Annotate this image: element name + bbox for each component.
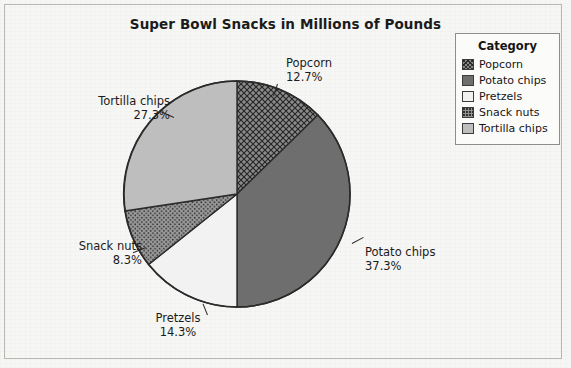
pie-label-snack-nuts-name: Snack nuts: [79, 239, 142, 253]
legend-item-snack-nuts[interactable]: Snack nuts: [462, 105, 553, 120]
pie-label-pretzels: Pretzels 14.3%: [133, 311, 223, 339]
pie-label-snack-nuts-percent: 8.3%: [32, 253, 142, 267]
legend-label-popcorn: Popcorn: [479, 58, 523, 71]
legend-swatch-snack-nuts-icon: [462, 107, 474, 118]
pie-label-potato-chips-name: Potato chips: [365, 245, 435, 259]
legend-swatch-potato-chips-icon: [462, 75, 474, 86]
legend-item-tortilla-chips[interactable]: Tortilla chips: [462, 121, 553, 136]
pie-label-potato-chips-percent: 37.3%: [365, 259, 435, 273]
legend-label-snack-nuts: Snack nuts: [479, 106, 540, 119]
pie-label-popcorn-percent: 12.7%: [286, 70, 332, 84]
legend-title: Category: [462, 39, 553, 53]
legend-swatch-tortilla-chips-icon: [462, 123, 474, 134]
pie-label-tortilla-chips-name: Tortilla chips: [98, 94, 170, 108]
legend-item-potato-chips[interactable]: Potato chips: [462, 73, 553, 88]
pie-label-pretzels-name: Pretzels: [155, 311, 200, 325]
pie-label-pretzels-percent: 14.3%: [133, 325, 223, 339]
pie-label-tortilla-chips: Tortilla chips 27.3%: [60, 94, 170, 122]
pie-label-popcorn-name: Popcorn: [286, 56, 332, 70]
chart-legend: Category Popcorn Potato chips Pretzels S…: [455, 33, 560, 145]
legend-label-tortilla-chips: Tortilla chips: [479, 122, 548, 135]
legend-swatch-pretzels-icon: [462, 91, 474, 102]
pie-label-potato-chips: Potato chips 37.3%: [365, 245, 435, 273]
legend-item-pretzels[interactable]: Pretzels: [462, 89, 553, 104]
pie-label-snack-nuts: Snack nuts 8.3%: [32, 239, 142, 267]
legend-label-potato-chips: Potato chips: [479, 74, 546, 87]
legend-label-pretzels: Pretzels: [479, 90, 522, 103]
pie-label-popcorn: Popcorn 12.7%: [286, 56, 332, 84]
legend-swatch-popcorn-icon: [462, 59, 474, 70]
legend-item-popcorn[interactable]: Popcorn: [462, 57, 553, 72]
pie-label-tortilla-chips-percent: 27.3%: [60, 108, 170, 122]
chart-page: Super Bowl Snacks in Millions of Pounds: [0, 0, 571, 368]
chart-title: Super Bowl Snacks in Millions of Pounds: [0, 16, 571, 32]
